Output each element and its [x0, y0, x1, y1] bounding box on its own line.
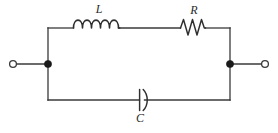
resistor-symbol [181, 20, 206, 36]
circuit-diagram-canvas: L R C [0, 0, 278, 133]
right-terminal-icon [262, 61, 269, 68]
inductor-coil-icon [74, 20, 119, 28]
resistor-label: R [189, 3, 198, 17]
left-terminal-icon [10, 61, 17, 68]
resistor-zigzag-icon [181, 20, 206, 36]
inductor-symbol [74, 20, 120, 28]
circuit-schematic: L R C [0, 0, 278, 133]
left-junction-node [44, 60, 51, 67]
capacitor-label: C [136, 111, 145, 125]
inductor-label: L [95, 2, 103, 16]
right-junction-node [226, 60, 233, 67]
